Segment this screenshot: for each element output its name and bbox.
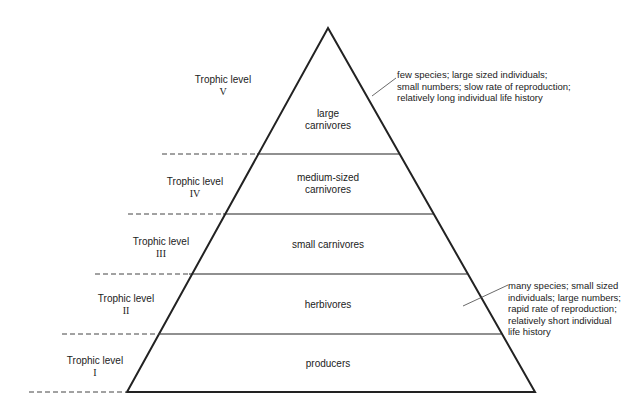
tier-name-4: medium-sized carnivores	[268, 172, 388, 196]
tier-name-line: small carnivores	[292, 239, 364, 250]
annotation-line: relatively short individual	[508, 315, 621, 327]
level-numeral: III	[121, 248, 201, 260]
annotation-line: individuals; large numbers;	[508, 292, 621, 304]
level-label: Trophic level	[98, 293, 154, 304]
trophic-level-5: Trophic level V	[183, 74, 263, 98]
trophic-level-4: Trophic level IV	[155, 176, 235, 200]
annotation-bottom: many species; small sized individuals; l…	[508, 280, 621, 338]
level-numeral: IV	[155, 188, 235, 200]
trophic-level-2: Trophic level II	[86, 293, 166, 317]
annotation-line: relatively long individual life history	[397, 92, 571, 104]
annotation-line: life history	[508, 326, 621, 338]
tier-name-5: large carnivores	[278, 108, 378, 132]
trophic-level-3: Trophic level III	[121, 236, 201, 260]
annotation-top: few species; large sized individuals; sm…	[397, 69, 571, 104]
tier-name-line: carnivores	[268, 184, 388, 196]
trophic-level-1: Trophic level I	[55, 355, 135, 379]
tier-name-3: small carnivores	[258, 239, 398, 251]
tier-name-2: herbivores	[268, 299, 388, 311]
level-numeral: I	[55, 367, 135, 379]
level-label: Trophic level	[167, 176, 223, 187]
level-numeral: V	[183, 86, 263, 98]
level-label: Trophic level	[133, 236, 189, 247]
level-label: Trophic level	[195, 74, 251, 85]
tier-name-line: producers	[306, 358, 350, 369]
tier-name-1: producers	[268, 358, 388, 370]
level-numeral: II	[86, 305, 166, 317]
annotation-line: small numbers; slow rate of reproduction…	[397, 81, 571, 93]
annotation-line: rapid rate of reproduction;	[508, 303, 621, 315]
tier-name-line: large	[278, 108, 378, 120]
tier-name-line: herbivores	[305, 299, 352, 310]
annotation-line: many species; small sized	[508, 280, 621, 292]
leader-bottom	[463, 285, 508, 306]
tier-name-line: carnivores	[278, 120, 378, 132]
annotation-line: few species; large sized individuals;	[397, 69, 571, 81]
tier-name-line: medium-sized	[268, 172, 388, 184]
leader-top	[372, 78, 396, 96]
level-label: Trophic level	[67, 355, 123, 366]
